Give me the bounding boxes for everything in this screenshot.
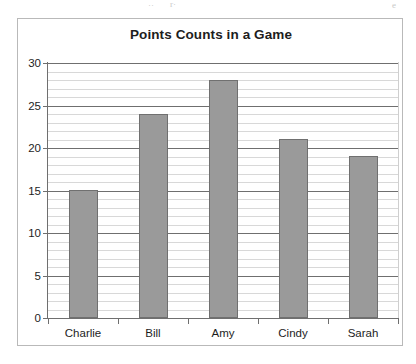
- scan-artifact-0: ··: [148, 1, 154, 10]
- x-axis-line: [47, 318, 399, 319]
- x-axis-tick-mark: [48, 318, 49, 324]
- gridline-major: [48, 63, 398, 64]
- x-axis-tick-mark: [328, 318, 329, 324]
- y-axis-tick-mark: [43, 106, 48, 107]
- x-axis-category-label: Sarah: [348, 327, 379, 339]
- x-axis-tick-mark: [188, 318, 189, 324]
- plot-wrapper: 051015202530 CharlieBillAmyCindySarah: [48, 63, 398, 318]
- scan-artifacts: ··r·e: [0, 0, 416, 16]
- x-axis-tick-mark: [258, 318, 259, 324]
- x-axis-category-label: Cindy: [278, 327, 307, 339]
- chart-figure: Points Counts in a Game 051015202530 Cha…: [17, 18, 403, 346]
- x-axis-category-label: Bill: [145, 327, 160, 339]
- y-axis-tick-label: 20: [28, 142, 41, 154]
- bar-charlie: [69, 190, 98, 318]
- y-axis-tick-label: 30: [28, 57, 41, 69]
- bar-bill: [139, 114, 168, 318]
- bar-amy: [209, 80, 238, 318]
- bar-cindy: [279, 139, 308, 318]
- plot-right-edge: [398, 62, 399, 318]
- x-axis-category-label: Amy: [212, 327, 235, 339]
- y-axis-tick-mark: [43, 191, 48, 192]
- y-axis-tick-mark: [43, 63, 48, 64]
- x-axis-tick-mark: [398, 318, 399, 324]
- x-axis-tick-mark: [118, 318, 119, 324]
- gridline-minor: [48, 72, 398, 73]
- y-axis-tick-label: 25: [28, 100, 41, 112]
- y-axis-tick-mark: [43, 276, 48, 277]
- y-axis-tick-label: 10: [28, 227, 41, 239]
- y-axis-tick-mark: [43, 148, 48, 149]
- y-axis-tick-label: 5: [35, 270, 41, 282]
- y-axis-tick-label: 0: [35, 312, 41, 324]
- scan-artifact-1: r·: [170, 0, 176, 9]
- scan-artifact-2: e: [392, 1, 396, 10]
- y-axis-tick-mark: [43, 233, 48, 234]
- chart-title: Points Counts in a Game: [18, 27, 404, 42]
- bar-sarah: [349, 156, 378, 318]
- y-axis-tick-label: 15: [28, 185, 41, 197]
- x-axis-category-label: Charlie: [65, 327, 101, 339]
